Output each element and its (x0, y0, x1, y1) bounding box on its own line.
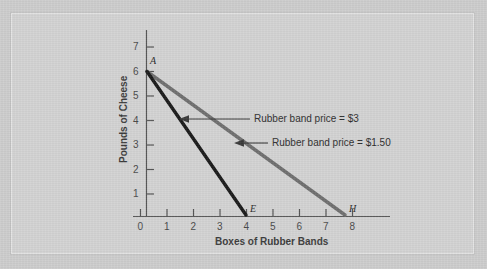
annotation-label-price-3: Rubber band price = $3 (254, 113, 359, 124)
x-tick-label-8: 8 (350, 221, 356, 232)
annotation-label-price-150: Rubber band price = $1.50 (272, 137, 391, 148)
y-tick-label-5: 5 (133, 90, 139, 101)
x-tick-label-6: 6 (297, 221, 303, 232)
figure-page: 7 6 5 4 3 2 1 0 1 2 3 4 5 6 7 8 Pounds o… (0, 0, 487, 269)
point-label-e: E (250, 203, 256, 214)
y-tick-label-4: 4 (133, 115, 139, 126)
series-line-black (147, 72, 246, 216)
x-axis-title: Boxes of Rubber Bands (215, 236, 328, 247)
y-tick-label-7: 7 (133, 41, 139, 52)
x-tick-label-4: 4 (244, 221, 250, 232)
x-tick-label-2: 2 (191, 221, 197, 232)
x-tick-label-7: 7 (323, 221, 329, 232)
x-tick-label-1: 1 (164, 221, 170, 232)
x-tick-label-3: 3 (217, 221, 223, 232)
y-tick-label-6: 6 (133, 66, 139, 77)
y-axis-title: Pounds of Cheese (118, 76, 129, 163)
y-tick-label-2: 2 (133, 164, 139, 175)
point-label-a: A (150, 55, 156, 66)
y-tick-label-3: 3 (133, 139, 139, 150)
x-tick-label-0: 0 (138, 221, 144, 232)
point-label-h: H (349, 203, 356, 214)
x-tick-label-5: 5 (270, 221, 276, 232)
y-axis-ticks (147, 47, 155, 194)
y-tick-label-1: 1 (133, 188, 139, 199)
